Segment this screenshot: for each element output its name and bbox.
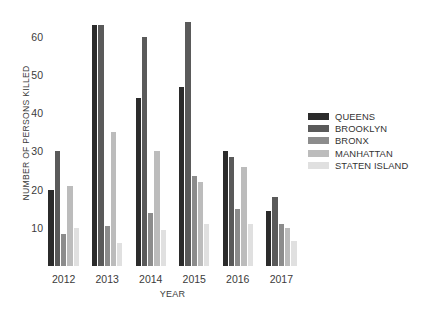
bar-2012-bronx xyxy=(61,234,66,266)
bar-2014-brooklyn xyxy=(142,37,147,266)
bar-2013-staten-island xyxy=(117,243,122,266)
legend-label: STATEN ISLAND xyxy=(335,160,408,171)
legend-item-manhattan: MANHATTAN xyxy=(308,147,408,159)
x-axis-tick-2014: 2014 xyxy=(139,273,162,285)
legend-swatch-icon xyxy=(308,125,329,132)
bar-2015-bronx xyxy=(192,176,197,266)
bar-2016-brooklyn xyxy=(229,157,234,266)
chart-legend: QUEENSBROOKLYNBRONXMANHATTANSTATEN ISLAN… xyxy=(308,110,408,172)
bar-2016-bronx xyxy=(235,209,240,266)
bar-2017-brooklyn xyxy=(272,197,277,266)
bar-2012-brooklyn xyxy=(55,151,60,266)
x-axis-tick-2016: 2016 xyxy=(226,273,249,285)
y-axis-tick-40: 40 xyxy=(31,107,43,119)
bar-2014-staten-island xyxy=(161,230,166,266)
bar-group-2015: 2015 xyxy=(179,14,210,266)
legend-item-queens: QUEENS xyxy=(308,110,408,122)
bar-2017-bronx xyxy=(279,224,284,266)
bar-group-2016: 2016 xyxy=(222,14,253,266)
bar-2017-queens xyxy=(266,211,271,266)
bar-2016-staten-island xyxy=(248,224,253,266)
x-axis-label: YEAR xyxy=(48,289,297,299)
legend-item-bronx: BRONX xyxy=(308,135,408,147)
legend-swatch-icon xyxy=(308,150,329,157)
bar-group-2017: 2017 xyxy=(266,14,297,266)
legend-label: QUEENS xyxy=(335,111,375,122)
bar-groups: 201220132014201520162017 xyxy=(48,14,297,266)
x-axis-tick-2017: 2017 xyxy=(270,273,293,285)
bar-2015-staten-island xyxy=(204,224,209,266)
legend-swatch-icon xyxy=(308,113,329,120)
bar-2013-bronx xyxy=(105,226,110,266)
bar-2017-manhattan xyxy=(285,228,290,266)
bar-2017-staten-island xyxy=(291,241,296,266)
bar-2012-staten-island xyxy=(74,228,79,266)
plot-area: 102030405060 201220132014201520162017 xyxy=(48,14,297,266)
bar-2013-brooklyn xyxy=(98,25,103,266)
bar-2014-bronx xyxy=(148,213,153,266)
bar-group-2014: 2014 xyxy=(135,14,166,266)
x-axis-tick-2012: 2012 xyxy=(52,273,75,285)
bar-2012-queens xyxy=(48,190,53,266)
legend-swatch-icon xyxy=(308,137,329,144)
bar-2012-manhattan xyxy=(67,186,72,266)
bar-2015-manhattan xyxy=(198,182,203,266)
bar-group-2012: 2012 xyxy=(48,14,79,266)
bar-group-2013: 2013 xyxy=(92,14,123,266)
legend-label: MANHATTAN xyxy=(335,148,393,159)
y-axis-label: NUMBER OF PERSONS KILLED xyxy=(21,23,31,243)
y-axis-tick-20: 20 xyxy=(31,184,43,196)
bar-2015-brooklyn xyxy=(185,22,190,266)
bar-2013-queens xyxy=(92,25,97,266)
legend-label: BRONX xyxy=(335,135,369,146)
bar-2015-queens xyxy=(179,87,184,266)
y-axis-tick-10: 10 xyxy=(31,222,43,234)
bar-2014-queens xyxy=(136,98,141,266)
bar-2016-queens xyxy=(223,151,228,266)
legend-item-staten-island: STATEN ISLAND xyxy=(308,160,408,172)
x-axis-tick-2015: 2015 xyxy=(183,273,206,285)
bar-2016-manhattan xyxy=(241,167,246,266)
legend-swatch-icon xyxy=(308,162,329,169)
bar-chart-figure: NUMBER OF PERSONS KILLED 102030405060 20… xyxy=(0,0,429,326)
y-axis-tick-50: 50 xyxy=(31,69,43,81)
bar-2013-manhattan xyxy=(111,132,116,266)
y-axis-tick-30: 30 xyxy=(31,145,43,157)
x-axis-tick-2013: 2013 xyxy=(96,273,119,285)
bar-2014-manhattan xyxy=(154,151,159,266)
legend-label: BROOKLYN xyxy=(335,123,387,134)
legend-item-brooklyn: BROOKLYN xyxy=(308,122,408,134)
y-axis-tick-60: 60 xyxy=(31,31,43,43)
